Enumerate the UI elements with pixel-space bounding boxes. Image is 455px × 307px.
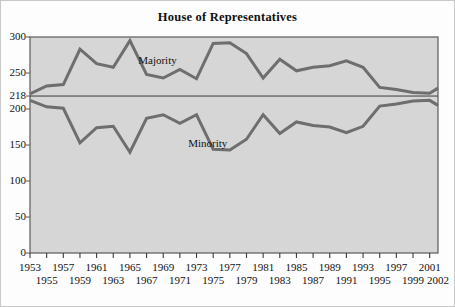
x-axis-tick-label-top: 1965 — [113, 261, 147, 273]
y-axis-tick-label: 200 — [0, 102, 26, 114]
x-axis-tick-label-top: 1997 — [379, 261, 413, 273]
x-axis-tick-label-bottom: 1991 — [329, 274, 363, 286]
x-axis-tick-label-top: 2001 — [413, 261, 447, 273]
x-axis-tick-label-bottom: 1983 — [263, 274, 297, 286]
x-axis-tick-label-bottom: 1975 — [196, 274, 230, 286]
y-axis-tick-label: 50 — [0, 210, 26, 222]
y-axis-tick-label: 0 — [0, 246, 26, 258]
x-axis-tick-label-top: 1989 — [313, 261, 347, 273]
x-axis-tick-label-bottom: 1979 — [229, 274, 263, 286]
y-axis-tick-label: 150 — [0, 138, 26, 150]
x-axis-tick-label-top: 1969 — [146, 261, 180, 273]
x-axis-tick-label-top: 1985 — [279, 261, 313, 273]
x-axis-tick-label-bottom: 1963 — [96, 274, 130, 286]
y-axis-tick-label: 250 — [0, 66, 26, 78]
x-axis-ticks — [30, 253, 430, 258]
x-axis-tick-label-bottom: 1995 — [363, 274, 397, 286]
series-label-minority: Minority — [188, 137, 227, 149]
y-axis-tick-label: 100 — [0, 174, 26, 186]
series-label-majority: Majority — [138, 54, 177, 66]
x-axis-tick-label-top: 1977 — [213, 261, 247, 273]
x-axis-tick-label-top: 1981 — [246, 261, 280, 273]
x-axis-tick-label-top: 1957 — [46, 261, 80, 273]
x-axis-tick-label-bottom: 1987 — [296, 274, 330, 286]
x-axis-tick-label-bottom: 1971 — [163, 274, 197, 286]
x-axis-tick-label-bottom: 1959 — [63, 274, 97, 286]
x-axis-tick-label-bottom: 2002 — [421, 274, 455, 286]
x-axis-tick-label-bottom: 1955 — [30, 274, 64, 286]
x-axis-tick-label-bottom: 1967 — [130, 274, 164, 286]
x-axis-tick-label-top: 1961 — [80, 261, 114, 273]
x-axis-tick-label-top: 1953 — [13, 261, 47, 273]
y-axis-tick-label: 300 — [0, 30, 26, 42]
y-axis-tick-label: 218 — [0, 89, 26, 101]
x-axis-tick-label-top: 1993 — [346, 261, 380, 273]
plot-background — [30, 37, 438, 253]
chart-figure: House of Representatives 050100150200218… — [0, 0, 455, 307]
x-axis-tick-label-top: 1973 — [180, 261, 214, 273]
